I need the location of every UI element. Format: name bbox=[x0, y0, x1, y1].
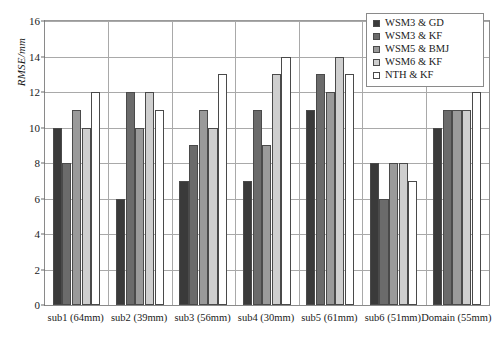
y-tick-label: 12 bbox=[29, 87, 40, 98]
bar bbox=[462, 110, 471, 305]
y-tick-label: 10 bbox=[29, 122, 40, 133]
bar bbox=[53, 128, 62, 306]
legend-item[interactable]: NTH & KF bbox=[373, 69, 479, 82]
y-axis-title: RMSE/mm bbox=[15, 17, 27, 107]
bar bbox=[91, 92, 100, 305]
bar bbox=[472, 92, 481, 305]
bar bbox=[72, 110, 81, 305]
bar bbox=[199, 110, 208, 305]
x-axis-label: sub1 (64mm) bbox=[48, 312, 104, 324]
legend-swatch-icon bbox=[373, 72, 380, 79]
legend-swatch-icon bbox=[373, 33, 380, 40]
legend-swatch-icon bbox=[373, 59, 380, 66]
legend-item[interactable]: WSM3 & GD bbox=[373, 17, 479, 30]
legend: WSM3 & GDWSM3 & KFWSM5 & BMJWSM6 & KFNTH… bbox=[366, 13, 484, 87]
bar bbox=[443, 110, 452, 305]
x-axis-label: sub5 (61mm) bbox=[301, 312, 357, 324]
bar bbox=[253, 110, 262, 305]
bar bbox=[335, 57, 344, 306]
bar bbox=[126, 92, 135, 305]
bar bbox=[243, 181, 252, 305]
x-axis-labels: sub1 (64mm)sub2 (39mm)sub3 (56mm)sub4 (3… bbox=[44, 312, 490, 334]
bar bbox=[135, 128, 144, 306]
bar bbox=[189, 145, 198, 305]
bar bbox=[155, 110, 164, 305]
y-tick-label: 14 bbox=[29, 51, 40, 62]
bar bbox=[82, 128, 91, 306]
bar bbox=[262, 145, 271, 305]
bar bbox=[370, 163, 379, 305]
y-tick-label: 4 bbox=[35, 229, 41, 240]
bar-group bbox=[45, 21, 108, 305]
legend-label: WSM3 & KF bbox=[385, 31, 442, 42]
bar bbox=[218, 74, 227, 305]
bar-chart: RMSE/mm 0246810121416 sub1 (64mm)sub2 (3… bbox=[0, 0, 499, 349]
bar-group bbox=[299, 21, 362, 305]
y-tick-label: 16 bbox=[29, 16, 40, 27]
bar-group bbox=[108, 21, 171, 305]
legend-item[interactable]: WSM5 & BMJ bbox=[373, 43, 479, 56]
bar bbox=[345, 74, 354, 305]
x-axis-label: sub4 (30mm) bbox=[238, 312, 294, 324]
bar-group bbox=[235, 21, 298, 305]
bar-group bbox=[172, 21, 235, 305]
legend-label: WSM5 & BMJ bbox=[385, 44, 449, 55]
x-axis-label: Domain (55mm) bbox=[421, 312, 491, 324]
legend-item[interactable]: WSM3 & KF bbox=[373, 30, 479, 43]
legend-item[interactable]: WSM6 & KF bbox=[373, 56, 479, 69]
y-tick-label: 0 bbox=[35, 300, 41, 311]
bar bbox=[179, 181, 188, 305]
bar bbox=[326, 92, 335, 305]
y-tick-label: 8 bbox=[35, 158, 41, 169]
bar bbox=[399, 163, 408, 305]
bar bbox=[208, 128, 217, 306]
bar bbox=[316, 74, 325, 305]
legend-swatch-icon bbox=[373, 20, 380, 27]
bar bbox=[379, 199, 388, 306]
bar bbox=[272, 74, 281, 305]
bar bbox=[116, 199, 125, 306]
bar bbox=[145, 92, 154, 305]
bar bbox=[408, 181, 417, 305]
y-tick-label: 2 bbox=[35, 264, 41, 275]
x-axis-label: sub6 (51mm) bbox=[365, 312, 421, 324]
x-axis-label: sub3 (56mm) bbox=[174, 312, 230, 324]
bar bbox=[452, 110, 461, 305]
bar bbox=[433, 128, 442, 306]
legend-label: WSM6 & KF bbox=[385, 57, 442, 68]
x-axis-label: sub2 (39mm) bbox=[111, 312, 167, 324]
legend-label: NTH & KF bbox=[385, 70, 433, 81]
bar bbox=[281, 57, 290, 306]
legend-label: WSM3 & GD bbox=[385, 18, 444, 29]
bar bbox=[62, 163, 71, 305]
bar bbox=[389, 163, 398, 305]
y-tick-label: 6 bbox=[35, 193, 41, 204]
bar bbox=[306, 110, 315, 305]
legend-swatch-icon bbox=[373, 46, 380, 53]
